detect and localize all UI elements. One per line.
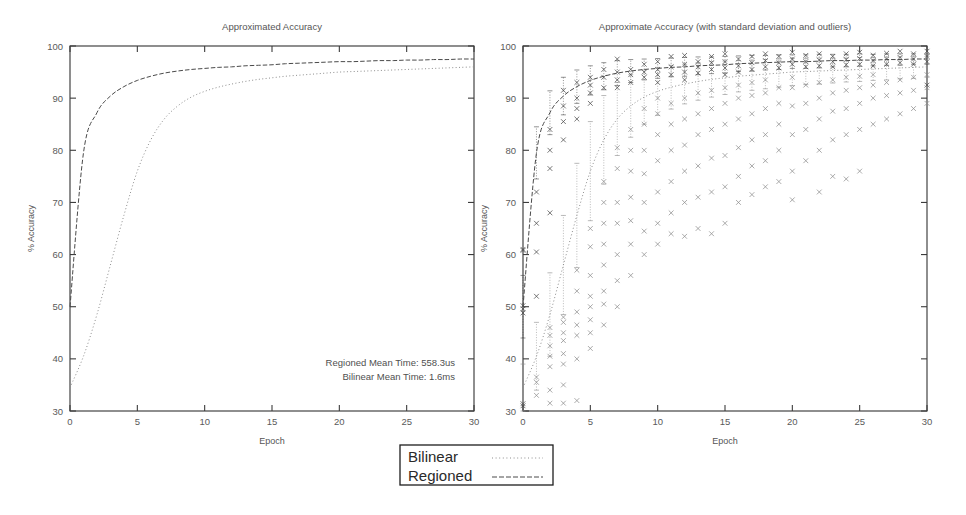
- outlier-marker: [588, 304, 593, 309]
- outlier-marker: [574, 289, 579, 294]
- outlier-marker: [790, 104, 795, 109]
- outlier-marker: [534, 250, 539, 255]
- approximated-accuracy-plot: Approximated Accuracy3040506070809010005…: [26, 21, 479, 446]
- x-tick-label: 25: [854, 416, 865, 427]
- outlier-marker: [601, 221, 606, 226]
- outlier-marker: [763, 132, 768, 137]
- outlier-marker: [628, 169, 633, 174]
- outlier-marker: [709, 127, 714, 132]
- y-tick-label: 100: [500, 41, 516, 52]
- outlier-marker: [574, 333, 579, 338]
- outlier-marker: [736, 145, 741, 150]
- outlier-marker: [642, 171, 647, 176]
- outlier-marker: [911, 106, 916, 111]
- outlier-marker: [723, 122, 728, 127]
- outlier-marker: [628, 195, 633, 200]
- outlier-marker: [709, 231, 714, 236]
- y-tick-label: 50: [52, 301, 63, 312]
- outlier-marker: [655, 158, 660, 163]
- y-tick-label: 40: [52, 353, 63, 364]
- y-axis-label: % Accuracy: [479, 204, 489, 252]
- outlier-marker: [669, 179, 674, 184]
- outlier-marker: [763, 106, 768, 111]
- y-tick-label: 80: [52, 145, 63, 156]
- outlier-marker: [615, 304, 620, 309]
- panel-title: Approximate Accuracy (with standard devi…: [599, 21, 851, 32]
- x-tick-label: 0: [520, 416, 525, 427]
- outlier-marker: [669, 148, 674, 153]
- outlier-marker: [817, 96, 822, 101]
- outlier-marker: [682, 143, 687, 148]
- outlier-marker: [817, 148, 822, 153]
- annotation-line-1: Regioned Mean Time: 558.3us: [326, 357, 456, 368]
- outlier-marker: [642, 200, 647, 205]
- panel-title: Approximated Accuracy: [222, 21, 322, 32]
- outlier-marker: [588, 346, 593, 351]
- outlier-marker: [655, 132, 660, 137]
- outlier-marker: [682, 77, 687, 82]
- outlier-marker: [628, 218, 633, 223]
- outlier-marker: [750, 93, 755, 98]
- outlier-marker: [803, 83, 808, 88]
- outlier-marker: [601, 200, 606, 205]
- legend-label-regioned: Regioned: [408, 467, 472, 484]
- outlier-marker: [615, 221, 620, 226]
- outlier-marker: [830, 174, 835, 179]
- outlier-marker: [682, 96, 687, 101]
- outlier-marker: [588, 244, 593, 249]
- outlier-marker: [898, 111, 903, 116]
- outlier-marker: [857, 127, 862, 132]
- outlier-marker: [696, 111, 701, 116]
- outlier-marker: [723, 153, 728, 158]
- outlier-marker: [615, 252, 620, 257]
- outlier-marker: [574, 106, 579, 111]
- y-tick-label: 100: [47, 41, 63, 52]
- x-tick-label: 30: [922, 416, 933, 427]
- outlier-marker: [561, 119, 566, 124]
- outlier-marker: [615, 200, 620, 205]
- outlier-marker: [857, 169, 862, 174]
- outlier-marker: [574, 268, 579, 273]
- outlier-marker: [776, 122, 781, 127]
- outlier-marker: [548, 148, 553, 153]
- x-tick-label: 30: [469, 416, 480, 427]
- outlier-marker: [709, 156, 714, 161]
- outlier-marker: [736, 174, 741, 179]
- outlier-marker: [817, 117, 822, 122]
- outlier-marker: [682, 117, 687, 122]
- outlier-marker: [601, 302, 606, 307]
- outlier-marker: [763, 158, 768, 163]
- outlier-marker: [830, 77, 835, 82]
- outlier-marker: [790, 85, 795, 90]
- outlier-marker: [655, 190, 660, 195]
- outliers-regioned: [521, 49, 930, 408]
- x-tick-label: 5: [135, 416, 140, 427]
- outlier-marker: [790, 197, 795, 202]
- outlier-marker: [884, 117, 889, 122]
- outlier-marker: [750, 137, 755, 142]
- y-tick-label: 60: [505, 249, 516, 260]
- outlier-marker: [588, 101, 593, 106]
- outlier-marker: [682, 169, 687, 174]
- x-tick-label: 0: [67, 416, 72, 427]
- outlier-marker: [776, 148, 781, 153]
- outlier-marker: [628, 242, 633, 247]
- outlier-marker: [844, 177, 849, 182]
- outlier-marker: [790, 75, 795, 80]
- y-tick-label: 30: [52, 406, 63, 417]
- y-tick-label: 80: [505, 145, 516, 156]
- outlier-marker: [655, 221, 660, 226]
- outlier-marker: [736, 96, 741, 101]
- outlier-marker: [830, 109, 835, 114]
- outlier-marker: [790, 132, 795, 137]
- outlier-marker: [803, 101, 808, 106]
- outlier-marker: [601, 323, 606, 328]
- annotation-line-2: Bilinear Mean Time: 1.6ms: [343, 371, 456, 382]
- outlier-marker: [615, 166, 620, 171]
- outlier-marker: [898, 49, 903, 54]
- outlier-marker: [588, 294, 593, 299]
- outlier-marker: [615, 85, 620, 90]
- outlier-marker: [642, 148, 647, 153]
- outlier-marker: [588, 317, 593, 322]
- outlier-marker: [561, 351, 566, 356]
